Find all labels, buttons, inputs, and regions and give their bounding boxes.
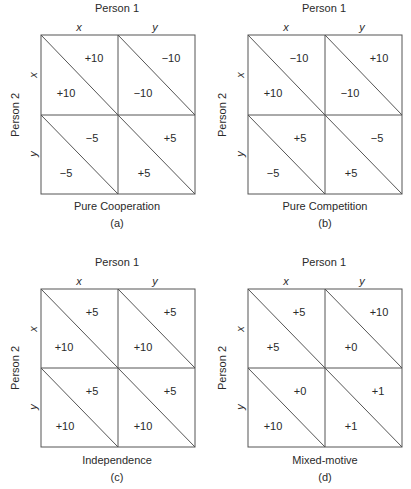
cell-xy-person2-payoff: +10 — [134, 341, 153, 353]
col-label-y: y — [152, 275, 158, 287]
person2-label: Person 2 — [9, 346, 21, 390]
person2-label: Person 2 — [216, 346, 228, 390]
row-label-y: y — [234, 151, 246, 157]
panel-letter: (d) — [318, 471, 331, 483]
cell-xy-person2-payoff: −10 — [341, 87, 360, 99]
cell-yy-person2-payoff: +1 — [345, 420, 358, 432]
cell-yx-person2-payoff: −5 — [60, 167, 73, 179]
person1-label: Person 1 — [95, 2, 139, 14]
cell-xx-person2-payoff: +5 — [267, 341, 280, 353]
cell-yx-person1-payoff: −5 — [86, 132, 99, 144]
col-label-x: x — [283, 275, 289, 287]
cell-xy-person2-payoff: +0 — [345, 341, 358, 353]
payoff-matrix-pure-competition: Person 1 x y Person 2 x y −10 +10 +10 −1… — [207, 0, 411, 245]
cell-xx-person2-payoff: +10 — [55, 341, 74, 353]
cell-yx-person1-payoff: +5 — [294, 132, 307, 144]
cell-yy-person2-payoff: +5 — [138, 167, 151, 179]
cell-xx-person1-payoff: −10 — [290, 52, 309, 64]
person2-label: Person 2 — [216, 93, 228, 137]
panel-title: Pure Cooperation — [74, 200, 160, 212]
cell-yx-person2-payoff: −5 — [267, 167, 280, 179]
cell-yy-person2-payoff: +10 — [134, 420, 153, 432]
cell-xx-person2-payoff: +10 — [57, 87, 76, 99]
row-label-x: x — [234, 326, 246, 332]
cell-xy-person1-payoff: −10 — [162, 52, 181, 64]
cell-yy-person1-payoff: +5 — [164, 132, 177, 144]
row-label-x: x — [234, 72, 246, 78]
person1-label: Person 1 — [302, 2, 346, 14]
panel-title: Independence — [82, 454, 152, 466]
col-label-x: x — [283, 21, 289, 33]
col-label-y: y — [152, 21, 158, 33]
row-label-y: y — [234, 404, 246, 410]
payoff-matrix-independence: Person 1 x y Person 2 x y +5 +10 +5 +10 … — [0, 254, 205, 489]
panel-letter: (c) — [111, 471, 124, 483]
row-label-x: x — [27, 72, 39, 78]
row-label-y: y — [27, 404, 39, 410]
cell-yy-person2-payoff: +5 — [345, 167, 358, 179]
person1-label: Person 1 — [302, 256, 346, 268]
cell-yx-person1-payoff: +0 — [294, 385, 307, 397]
cell-xx-person2-payoff: +10 — [264, 87, 283, 99]
panel-title: Mixed-motive — [292, 454, 357, 466]
cell-xy-person1-payoff: +5 — [164, 306, 177, 318]
cell-yy-person1-payoff: +1 — [372, 385, 385, 397]
person1-label: Person 1 — [95, 256, 139, 268]
cell-yx-person2-payoff: +10 — [56, 420, 75, 432]
cell-yy-person1-payoff: −5 — [371, 132, 384, 144]
row-label-x: x — [27, 326, 39, 332]
col-label-x: x — [76, 275, 82, 287]
cell-xy-person2-payoff: −10 — [134, 87, 153, 99]
person2-label: Person 2 — [9, 93, 21, 137]
cell-xy-person1-payoff: +10 — [370, 52, 389, 64]
cell-yy-person1-payoff: +5 — [164, 385, 177, 397]
panel-title: Pure Competition — [283, 200, 368, 212]
cell-xx-person1-payoff: +10 — [85, 52, 104, 64]
payoff-matrix-pure-cooperation: Person 1 x y Person 2 x y +10 +10 −10 −1… — [0, 0, 205, 245]
cell-yx-person2-payoff: +10 — [264, 420, 283, 432]
cell-xx-person1-payoff: +5 — [293, 306, 306, 318]
cell-yx-person1-payoff: +5 — [86, 385, 99, 397]
cell-xx-person1-payoff: +5 — [86, 306, 99, 318]
col-label-x: x — [76, 21, 82, 33]
cell-xy-person1-payoff: +10 — [370, 306, 389, 318]
col-label-y: y — [359, 275, 365, 287]
row-label-y: y — [27, 151, 39, 157]
panel-letter: (b) — [318, 217, 331, 229]
panel-letter: (a) — [110, 217, 123, 229]
payoff-matrix-mixed-motive: Person 1 x y Person 2 x y +5 +5 +10 +0 +… — [207, 254, 411, 489]
col-label-y: y — [359, 21, 365, 33]
